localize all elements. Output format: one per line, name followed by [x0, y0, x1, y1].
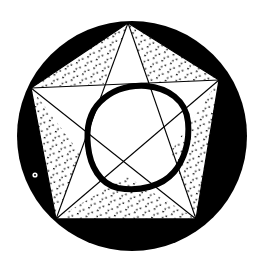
pentagram-diagram — [0, 0, 260, 268]
marker-dot-center — [34, 174, 36, 176]
diagram-canvas — [0, 0, 260, 268]
